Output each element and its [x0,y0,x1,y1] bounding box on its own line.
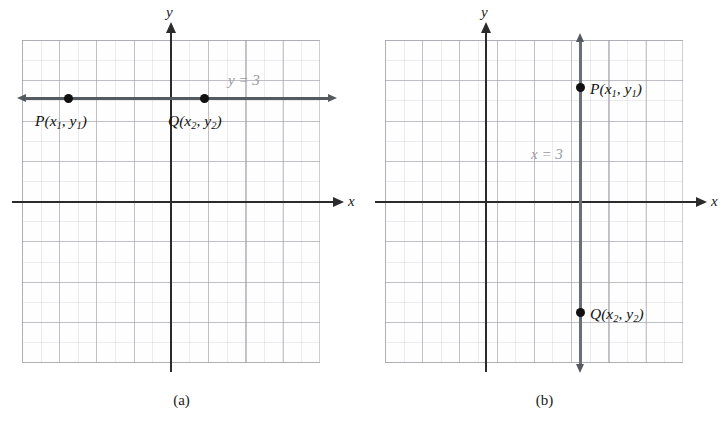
point-p-prefix-b: P( [590,80,605,97]
line-arrow-up-b [576,33,584,42]
point-q-label-a: Q(x2, y2) [168,112,222,131]
point-q-suffix-a: ) [216,112,221,129]
point-p-sep-b: , [617,80,625,97]
point-p-suffix-b: ) [637,80,642,97]
point-p-suffix-a: ) [82,112,87,129]
line-arrow-left-a [17,94,26,102]
point-p-label-a: P(x1, y1) [35,112,87,131]
line-arrow-right-a [328,94,337,102]
equation-label-b-text: x = 3 [531,146,563,162]
y-axis-label-a: y [166,4,173,21]
point-p-prefix-a: P( [35,112,50,129]
panel-b: x y x = 3 P(x1, y1) Q(x2, y2) (b) [363,0,726,426]
equation-label-a: y = 3 [228,72,260,89]
equation-label-b: x = 3 [531,146,563,163]
x-axis-label-a: x [348,193,355,210]
point-q-prefix-b: Q( [590,305,606,322]
point-q-dot-b [576,308,585,317]
x-axis-arrow-a [333,197,344,207]
equation-label-a-text: y = 3 [228,72,260,88]
point-q-label-b: Q(x2, y2) [590,305,644,324]
panel-caption-a: (a) [0,392,363,409]
point-p-dot-a [64,94,73,103]
point-p-xvar-a: x [50,112,57,129]
y-axis-b [485,32,487,372]
x-axis-arrow-b [696,197,707,207]
y-axis-arrow-a [166,22,176,33]
y-axis-label-b: y [481,4,488,21]
panel-caption-b: (b) [363,392,726,409]
point-p-xvar-b: x [605,80,612,97]
point-p-dot-b [576,83,585,92]
y-axis-a [170,32,172,372]
x-axis-label-b: x [711,193,718,210]
point-p-sep-a: , [62,112,70,129]
x-axis-a [12,201,334,203]
line-arrow-down-b [576,364,584,373]
x-axis-b [375,201,697,203]
point-q-prefix-a: Q( [168,112,184,129]
y-axis-arrow-b [481,22,491,33]
point-p-label-b: P(x1, y1) [590,80,642,99]
point-q-dot-a [200,94,209,103]
figure-root: x y y = 3 P(x1, y1) Q(x2, y2) (a) x [0,0,726,426]
panel-a: x y y = 3 P(x1, y1) Q(x2, y2) (a) [0,0,363,426]
point-q-suffix-b: ) [638,305,643,322]
